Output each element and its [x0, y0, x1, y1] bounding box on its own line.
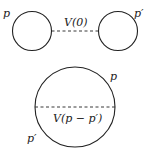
top-momentum-label: p — [110, 70, 117, 83]
interaction-label: V(0) — [64, 16, 88, 29]
bottom-momentum-label: p′ — [27, 132, 37, 145]
right-momentum-label: p′ — [134, 7, 144, 20]
left-loop — [13, 12, 52, 51]
left-momentum-label: p — [3, 7, 10, 20]
bottom-diagram: p V(p − p′) p′ — [27, 67, 117, 147]
exchange-label: V(p − p′) — [53, 112, 102, 125]
right-loop — [99, 12, 138, 51]
top-diagram: p V(0) p′ — [3, 7, 144, 51]
feynman-diagrams: p V(0) p′ p V(p − p′) p′ — [0, 0, 150, 153]
